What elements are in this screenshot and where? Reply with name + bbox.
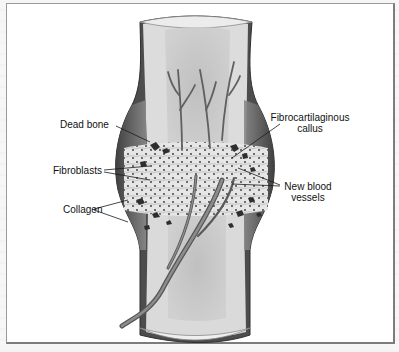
label-fibroblasts: Fibroblasts	[53, 165, 102, 176]
label-fibrocartilaginous-callus: Fibrocartilaginous callus	[260, 112, 360, 134]
label-dead-bone: Dead bone	[60, 119, 109, 130]
label-collagen: Collagen	[63, 204, 102, 215]
bone-fracture-illustration	[0, 0, 399, 352]
label-new-blood-vessels: New blood vessels	[278, 181, 338, 203]
label-callus-line2: callus	[260, 123, 360, 134]
label-vessels-line2: vessels	[278, 192, 338, 203]
label-vessels-line1: New blood	[278, 181, 338, 192]
label-callus-line1: Fibrocartilaginous	[260, 112, 360, 123]
